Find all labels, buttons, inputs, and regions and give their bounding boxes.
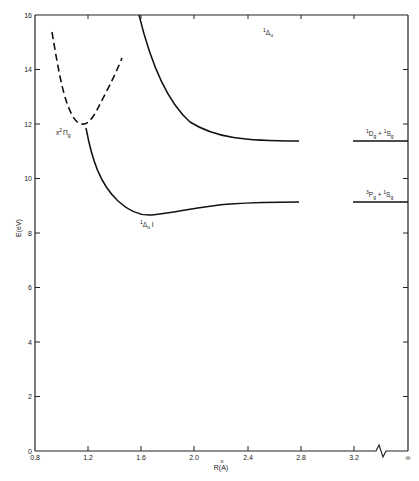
- label-delta-u-lower: 1Δu I: [140, 219, 154, 230]
- x-tick-label: 1.2: [83, 454, 93, 461]
- y-tick-label: 2: [28, 393, 32, 400]
- y-tick-label: 10: [24, 175, 32, 182]
- y-tick-label: 12: [24, 121, 32, 128]
- x-tick-label: 2.4: [243, 454, 253, 461]
- angstrom-ring: o: [221, 458, 224, 464]
- x-tick-label-infinity: ∞: [406, 454, 411, 461]
- label-x2pig: x2Πg: [56, 127, 71, 138]
- y-tick-label: 4: [28, 339, 32, 346]
- y-axis-title: E(eV): [15, 219, 23, 237]
- y-tick-label: 8: [28, 230, 32, 237]
- x-tick-label: 0.8: [30, 454, 40, 461]
- x-ticks: [88, 15, 354, 451]
- x-tick-label: 2.0: [189, 454, 199, 461]
- y-tick-label: 14: [24, 66, 32, 73]
- y-tick-labels: 0 2 4 6 8 10 12 14 16: [24, 12, 32, 455]
- x-axis-title: R(A): [214, 464, 228, 472]
- potential-energy-chart: 0.8 1.2 1.6 2.0 2.4 2.8 3.2 ∞ 0 2 4 6 8 …: [0, 0, 419, 481]
- curve-x2pig-dashed: [52, 32, 122, 124]
- y-tick-label: 16: [24, 12, 32, 19]
- y-tick-label: 0: [28, 448, 32, 455]
- x-tick-label: 2.8: [296, 454, 306, 461]
- y-tick-label: 6: [28, 284, 32, 291]
- x-tick-label: 1.6: [136, 454, 146, 461]
- x-tick-label: 3.2: [349, 454, 359, 461]
- label-delta-u-upper: 1Δu: [263, 27, 273, 38]
- axes: [35, 15, 408, 457]
- label-3pg-1sg: 3Pg + 1Sg: [366, 189, 393, 200]
- label-1dg-1sg: 1Dg + 1Sg: [366, 128, 394, 139]
- curve-delta-u-upper: [139, 15, 299, 141]
